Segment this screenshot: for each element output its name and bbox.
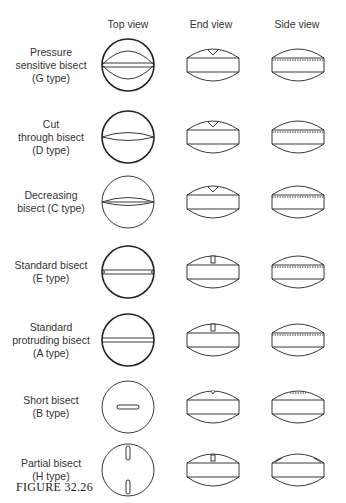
side-view-outline bbox=[272, 391, 324, 423]
side-view-outline bbox=[272, 256, 324, 288]
side-view-outline bbox=[272, 121, 324, 153]
end-view-notch bbox=[211, 391, 215, 394]
end-view-notch bbox=[208, 187, 218, 192]
figure-caption: FIGURE 32.26 bbox=[16, 480, 93, 495]
top-view-circle bbox=[102, 444, 154, 496]
partial-score-bottom bbox=[126, 480, 130, 494]
end-view-groove bbox=[211, 455, 215, 461]
side-view-outline bbox=[272, 186, 324, 218]
side-view-outline bbox=[272, 49, 324, 81]
end-view-notch bbox=[208, 50, 218, 55]
top-view-circle bbox=[102, 111, 154, 163]
score-arc bbox=[102, 137, 154, 141]
score-arc bbox=[102, 202, 154, 206]
score-arc bbox=[102, 198, 154, 203]
end-view-outline bbox=[187, 391, 239, 423]
row-a bbox=[102, 314, 324, 366]
score-arc bbox=[102, 133, 154, 138]
short-score bbox=[117, 405, 139, 409]
top-view-circle bbox=[102, 314, 154, 366]
top-view-circle bbox=[102, 246, 154, 298]
top-view-circle bbox=[102, 39, 154, 91]
end-view-groove bbox=[211, 256, 215, 263]
partial-score-top bbox=[126, 446, 130, 460]
row-e bbox=[102, 246, 324, 298]
top-view-circle bbox=[102, 381, 154, 433]
row-b bbox=[102, 381, 324, 433]
row-d bbox=[102, 111, 324, 163]
row-g bbox=[102, 39, 324, 91]
tablet-diagram bbox=[0, 0, 346, 503]
end-view-notch bbox=[208, 122, 218, 127]
side-view-outline bbox=[272, 324, 324, 356]
row-c bbox=[102, 176, 324, 228]
row-h bbox=[102, 444, 324, 496]
end-view-groove bbox=[211, 324, 215, 331]
